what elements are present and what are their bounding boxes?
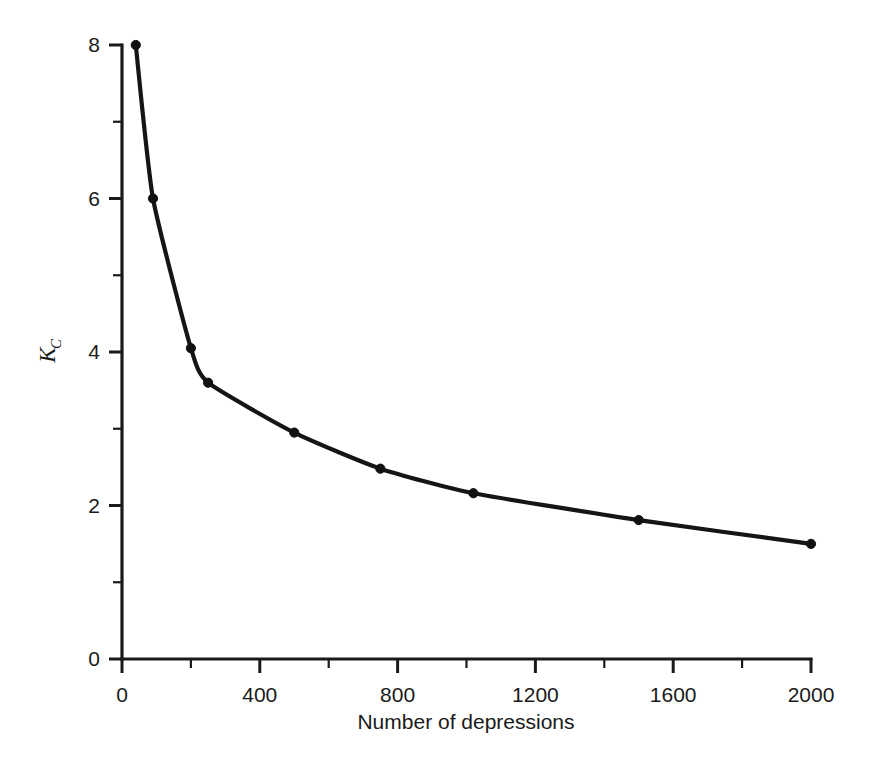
y-axis-title: K C — [35, 338, 64, 364]
x-tick-label: 1600 — [650, 683, 697, 706]
x-axis-ticks — [122, 659, 811, 673]
x-tick-label: 400 — [242, 683, 277, 706]
data-series-group — [131, 40, 815, 548]
data-point-3 — [204, 378, 213, 387]
data-point-2 — [186, 344, 195, 353]
y-tick-label: 4 — [88, 340, 100, 363]
x-axis-title: Number of depressions — [357, 710, 574, 733]
data-point-8 — [806, 539, 815, 548]
data-markers — [131, 40, 815, 548]
data-point-1 — [148, 194, 157, 203]
data-point-6 — [469, 489, 478, 498]
x-tick-label: 1200 — [512, 683, 559, 706]
y-axis-title-subscript: C — [48, 338, 64, 349]
y-tick-label: 0 — [88, 647, 100, 670]
y-tick-label: 6 — [88, 187, 100, 210]
y-tick-label: 8 — [88, 33, 100, 56]
axes-group — [122, 45, 811, 659]
y-axis-tick-labels: 02468 — [88, 33, 100, 670]
y-axis-ticks — [109, 45, 122, 659]
y-tick-label: 2 — [88, 494, 100, 517]
x-axis-tick-labels: 0400800120016002000 — [116, 683, 834, 706]
data-point-5 — [376, 464, 385, 473]
x-tick-label: 0 — [116, 683, 128, 706]
data-point-4 — [290, 428, 299, 437]
data-point-7 — [634, 515, 643, 524]
data-point-0 — [131, 40, 140, 49]
chart-canvas: 02468 0400800120016002000 Number of depr… — [0, 0, 869, 776]
x-tick-label: 2000 — [788, 683, 835, 706]
chart-figure: 02468 0400800120016002000 Number of depr… — [0, 0, 869, 776]
data-line — [136, 45, 811, 544]
x-tick-label: 800 — [380, 683, 415, 706]
